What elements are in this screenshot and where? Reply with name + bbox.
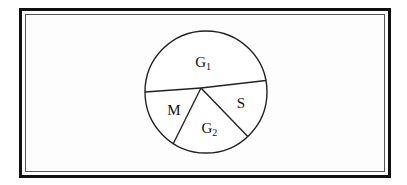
slice-label-m: M — [167, 102, 180, 118]
slice-label-s: S — [237, 95, 245, 111]
pie-chart: G1SG2M — [0, 0, 407, 185]
